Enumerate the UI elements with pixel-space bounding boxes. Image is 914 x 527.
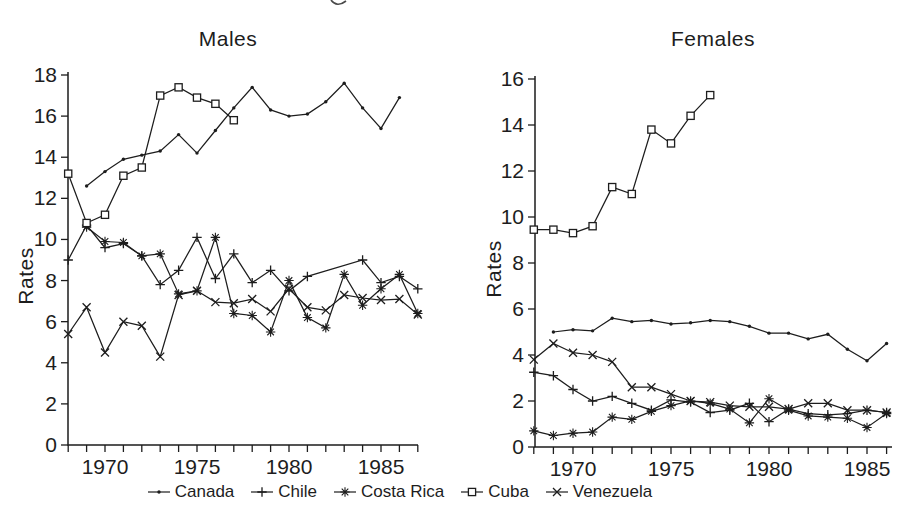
legend-item-chile: Chile [250, 482, 317, 502]
svg-text:10: 10 [34, 227, 57, 250]
svg-text:1975: 1975 [648, 457, 695, 480]
svg-text:16: 16 [34, 104, 57, 127]
svg-text:8: 8 [45, 269, 57, 292]
legend-item-canada: Canada [147, 482, 235, 502]
legend-item-cuba: Cuba [460, 482, 529, 502]
svg-text:2: 2 [512, 389, 524, 412]
svg-text:8: 8 [512, 251, 524, 274]
legend-label: Venezuela [573, 482, 652, 502]
svg-text:2: 2 [45, 392, 57, 415]
svg-text:4: 4 [45, 351, 57, 374]
scanned-figure: Males Females Rates Rates 02468101214161… [0, 0, 914, 527]
legend-label: Cuba [488, 482, 529, 502]
asterisk-marker-icon [333, 484, 357, 500]
svg-text:1980: 1980 [746, 457, 793, 480]
svg-text:12: 12 [501, 159, 524, 182]
svg-text:10: 10 [501, 205, 524, 228]
svg-text:1975: 1975 [174, 455, 221, 478]
legend-item-venezuela: Venezuela [545, 482, 652, 502]
svg-text:1980: 1980 [266, 455, 313, 478]
legend-label: Costa Rica [361, 482, 444, 502]
chart-canvas: 0246810121416181970197519801985024681012… [0, 0, 914, 527]
svg-text:16: 16 [501, 67, 524, 90]
legend-label: Canada [175, 482, 235, 502]
svg-text:18: 18 [34, 63, 57, 86]
svg-text:4: 4 [512, 343, 524, 366]
svg-text:6: 6 [45, 310, 57, 333]
legend-item-costa-rica: Costa Rica [333, 482, 444, 502]
svg-text:14: 14 [34, 145, 58, 168]
svg-text:0: 0 [512, 435, 524, 458]
cross-marker-icon [545, 484, 569, 500]
svg-text:1970: 1970 [82, 455, 129, 478]
plus-marker-icon [250, 484, 274, 500]
square-marker-icon [460, 484, 484, 500]
dot-marker-icon [147, 484, 171, 500]
svg-text:0: 0 [45, 433, 57, 456]
svg-text:6: 6 [512, 297, 524, 320]
svg-text:12: 12 [34, 186, 57, 209]
legend: CanadaChileCosta RicaCubaVenezuela [0, 482, 914, 502]
legend-label: Chile [278, 482, 317, 502]
svg-text:1985: 1985 [844, 457, 891, 480]
svg-text:14: 14 [501, 113, 525, 136]
svg-text:1970: 1970 [550, 457, 597, 480]
svg-text:1985: 1985 [358, 455, 405, 478]
